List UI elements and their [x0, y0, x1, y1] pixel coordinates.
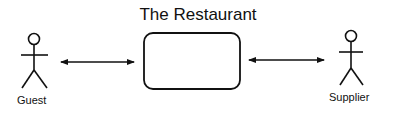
guest-actor-icon — [21, 34, 48, 89]
supplier-label: Supplier — [329, 91, 369, 103]
guest-label: Guest — [17, 94, 46, 106]
supplier-actor-icon — [339, 31, 363, 86]
restaurant-system-box — [144, 33, 240, 89]
